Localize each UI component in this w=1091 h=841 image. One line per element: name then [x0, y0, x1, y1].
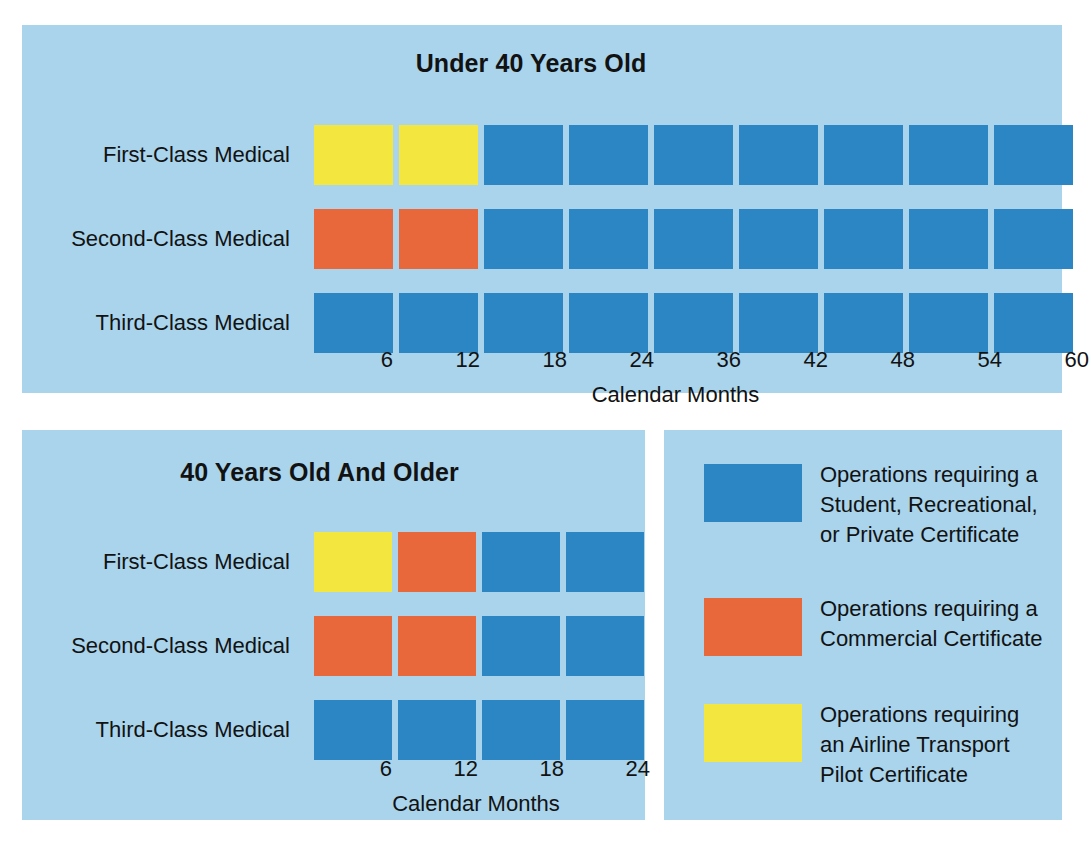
chart-cell [398, 532, 476, 592]
axis-tick: 18 [486, 756, 566, 782]
chart-cell [654, 293, 733, 353]
chart-cell [314, 293, 393, 353]
chart-cell [314, 209, 393, 269]
chart-cell [566, 532, 644, 592]
chart-cell [314, 532, 392, 592]
legend-panel: Operations requiring a Student, Recreati… [664, 430, 1062, 820]
chart-cell [484, 209, 563, 269]
chart-cell [909, 209, 988, 269]
table-row: Second-Class Medical [22, 604, 645, 688]
chart-cell [314, 700, 392, 760]
chart-cell [569, 293, 648, 353]
legend-swatch-blue [704, 464, 802, 522]
legend-list: Operations requiring a Student, Recreati… [664, 460, 1062, 834]
chart-cell [314, 125, 393, 185]
chart-cell [994, 209, 1073, 269]
legend-item-airline-transport-pilot: Operations requiring an Airline Transpor… [664, 700, 1062, 790]
chart-cell [739, 293, 818, 353]
axis-tick: 6 [314, 756, 394, 782]
chart-cell [398, 616, 476, 676]
chart-cell [484, 125, 563, 185]
legend-item-student-recreational-private: Operations requiring a Student, Recreati… [664, 460, 1062, 550]
page-title-under-40: Under 40 Years Old [22, 49, 1040, 78]
chart-rows-40-and-older: First-Class Medical Second-Class Medical… [22, 520, 645, 772]
axis-tick: 36 [662, 347, 743, 373]
x-axis-label-under-40: Calendar Months [314, 382, 1037, 408]
axis-tick: 12 [400, 756, 480, 782]
row-label-third-class: Third-Class Medical [22, 310, 290, 336]
axis-tick: 24 [575, 347, 656, 373]
chart-cell [314, 616, 392, 676]
legend-item-commercial: Operations requiring a Commercial Certif… [664, 594, 1062, 656]
chart-cell [824, 209, 903, 269]
chart-cell [654, 209, 733, 269]
chart-cell [739, 209, 818, 269]
chart-cell [569, 209, 648, 269]
row-label-second-class: Second-Class Medical [22, 633, 290, 659]
row-cells-second-class [314, 209, 1073, 269]
x-axis-ticks-under-40: 6 12 18 24 36 42 48 54 60 [314, 347, 1091, 373]
row-label-first-class: First-Class Medical [22, 549, 290, 575]
chart-cell [399, 293, 478, 353]
chart-cell [566, 616, 644, 676]
table-row: Second-Class Medical [22, 197, 1062, 281]
chart-panel-under-40: Under 40 Years Old First-Class Medical S… [22, 25, 1062, 393]
legend-label: Operations requiring a Student, Recreati… [820, 460, 1038, 550]
axis-tick: 12 [401, 347, 482, 373]
chart-cell [482, 532, 560, 592]
chart-panel-40-and-older: 40 Years Old And Older First-Class Medic… [22, 430, 645, 820]
row-cells-first-class [314, 125, 1073, 185]
row-cells-second-class [314, 616, 644, 676]
row-cells-third-class [314, 700, 644, 760]
x-axis-label-40-and-older: Calendar Months [314, 791, 638, 817]
page-title-40-and-older: 40 Years Old And Older [22, 458, 617, 487]
row-cells-first-class [314, 532, 644, 592]
chart-rows-under-40: First-Class Medical Second-Class Medical [22, 113, 1062, 365]
chart-cell [909, 293, 988, 353]
chart-cell [569, 125, 648, 185]
chart-cell [909, 125, 988, 185]
legend-label: Operations requiring a Commercial Certif… [820, 594, 1043, 654]
chart-cell [399, 125, 478, 185]
row-label-second-class: Second-Class Medical [22, 226, 290, 252]
chart-cell [824, 293, 903, 353]
table-row: First-Class Medical [22, 520, 645, 604]
chart-cell [398, 700, 476, 760]
chart-cell [994, 125, 1073, 185]
chart-cell [482, 700, 560, 760]
axis-tick: 48 [836, 347, 917, 373]
chart-cell [566, 700, 644, 760]
table-row: First-Class Medical [22, 113, 1062, 197]
axis-tick: 42 [749, 347, 830, 373]
chart-cell [484, 293, 563, 353]
axis-tick: 6 [314, 347, 395, 373]
chart-cell [824, 125, 903, 185]
chart-cell [739, 125, 818, 185]
axis-tick: 18 [488, 347, 569, 373]
legend-label: Operations requiring an Airline Transpor… [820, 700, 1019, 790]
row-cells-third-class [314, 293, 1073, 353]
row-label-third-class: Third-Class Medical [22, 717, 290, 743]
chart-cell [399, 209, 478, 269]
axis-tick: 60 [1010, 347, 1091, 373]
axis-tick: 54 [923, 347, 1004, 373]
chart-cell [994, 293, 1073, 353]
legend-swatch-orange [704, 598, 802, 656]
chart-cell [654, 125, 733, 185]
row-label-first-class: First-Class Medical [22, 142, 290, 168]
chart-cell [482, 616, 560, 676]
axis-tick: 24 [572, 756, 652, 782]
x-axis-ticks-40-and-older: 6 12 18 24 [314, 756, 652, 782]
legend-swatch-yellow [704, 704, 802, 762]
